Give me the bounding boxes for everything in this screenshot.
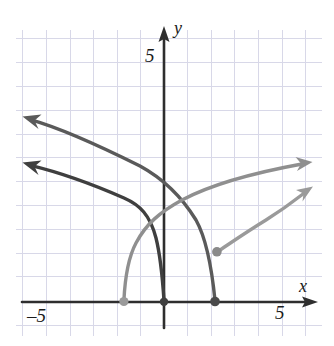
y-tick-label-pos5: 5 bbox=[145, 46, 155, 65]
coordinate-plane bbox=[0, 0, 334, 346]
dot-x-2 bbox=[210, 297, 220, 307]
curve-4-gray-increasing-lower bbox=[217, 187, 313, 253]
dot-origin bbox=[160, 298, 168, 306]
x-tick-label-neg5: –5 bbox=[27, 306, 46, 325]
curve-4-path bbox=[217, 194, 303, 252]
grid-lines bbox=[16, 30, 322, 336]
graph-figure: –5 5 5 x y bbox=[0, 0, 334, 346]
dot-x-neg1point7 bbox=[119, 297, 128, 306]
dot-open-2-1 bbox=[212, 247, 222, 257]
y-axis-label: y bbox=[174, 19, 182, 37]
x-axis-label: x bbox=[299, 277, 307, 295]
curve-1-dark-decreasing-upper bbox=[23, 115, 216, 301]
x-tick-label-pos5: 5 bbox=[275, 303, 285, 322]
